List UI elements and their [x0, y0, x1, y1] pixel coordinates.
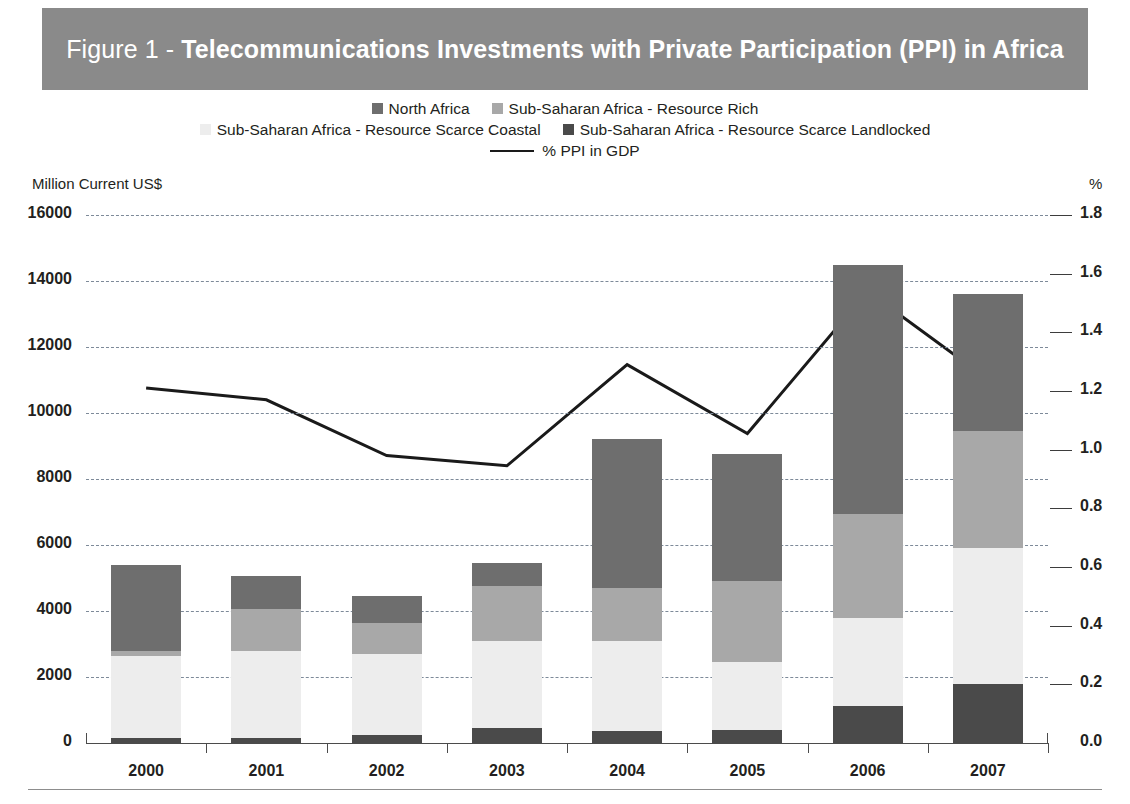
- chart-plot-area: [86, 215, 1048, 743]
- x-axis-tick-label: 2001: [221, 762, 311, 780]
- y2-axis-tick-mark: [1050, 391, 1072, 392]
- bar-segment[interactable]: [472, 728, 542, 743]
- bar-segment[interactable]: [352, 596, 422, 622]
- bar-stack-2007[interactable]: [953, 215, 1023, 743]
- figure-number: Figure 1 -: [66, 35, 181, 63]
- y-axis-tick-label: 6000: [12, 534, 72, 552]
- legend-label: Sub-Saharan Africa - Resource Scarce Coa…: [217, 121, 541, 139]
- legend-item[interactable]: % PPI in GDP: [490, 142, 639, 160]
- bar-segment[interactable]: [592, 731, 662, 743]
- x-axis-tick-mark: [567, 743, 568, 753]
- bar-segment[interactable]: [472, 641, 542, 728]
- legend-swatch-icon: [200, 124, 211, 135]
- page-title: Figure 1 - Telecommunications Investment…: [66, 34, 1064, 64]
- y2-axis-tick-label: 0.6: [1080, 556, 1130, 574]
- bar-segment[interactable]: [231, 609, 301, 650]
- y2-axis-tick-mark: [1050, 684, 1072, 685]
- legend-item[interactable]: Sub-Saharan Africa - Resource Rich: [492, 100, 759, 118]
- gridline: [86, 479, 1048, 480]
- y2-axis-tick-label: 1.2: [1080, 380, 1130, 398]
- bar-segment[interactable]: [592, 439, 662, 588]
- bar-segment[interactable]: [712, 454, 782, 581]
- bar-stack-2006[interactable]: [833, 215, 903, 743]
- y2-axis-tick-mark: [1050, 567, 1072, 568]
- page-bottom-rule: [28, 789, 1102, 790]
- x-axis-tick-mark: [206, 743, 207, 753]
- bar-segment[interactable]: [953, 548, 1023, 683]
- bar-segment[interactable]: [231, 651, 301, 738]
- legend-label: % PPI in GDP: [542, 142, 639, 160]
- bar-segment[interactable]: [111, 656, 181, 739]
- x-axis-tick-label: 2005: [702, 762, 792, 780]
- legend-item[interactable]: North Africa: [372, 100, 470, 118]
- bar-segment[interactable]: [833, 706, 903, 743]
- bar-segment[interactable]: [592, 588, 662, 641]
- x-axis-tick-mark: [687, 743, 688, 753]
- gridline: [86, 347, 1048, 348]
- bar-segment[interactable]: [833, 514, 903, 618]
- bar-segment[interactable]: [472, 586, 542, 640]
- y-axis-tick-label: 8000: [12, 468, 72, 486]
- x-axis-tick-label: 2003: [462, 762, 552, 780]
- y2-axis-tick-label: 0.8: [1080, 497, 1130, 515]
- y2-axis-tick-mark: [1050, 450, 1072, 451]
- gridline: [86, 677, 1048, 678]
- x-axis-tick-mark: [808, 743, 809, 753]
- y-axis-tick-label: 16000: [12, 204, 72, 222]
- y-axis-tick-label: 4000: [12, 600, 72, 618]
- y2-axis-tick-label: 0.0: [1080, 732, 1130, 750]
- bar-segment[interactable]: [712, 730, 782, 743]
- y2-axis-tick-label: 1.0: [1080, 439, 1130, 457]
- bar-stack-2000[interactable]: [111, 215, 181, 743]
- bar-segment[interactable]: [352, 623, 422, 654]
- left-axis-unit-label: Million Current US$: [32, 175, 162, 192]
- legend-swatch-icon: [563, 124, 574, 135]
- bar-segment[interactable]: [953, 431, 1023, 548]
- bar-stack-2003[interactable]: [472, 215, 542, 743]
- bar-stack-2001[interactable]: [231, 215, 301, 743]
- y-axis-tick-label: 0: [12, 732, 72, 750]
- gridline: [86, 545, 1048, 546]
- y2-axis-tick-label: 0.2: [1080, 673, 1130, 691]
- bar-stack-2004[interactable]: [592, 215, 662, 743]
- legend-row: North AfricaSub-Saharan Africa - Resourc…: [0, 98, 1130, 119]
- legend-row: Sub-Saharan Africa - Resource Scarce Coa…: [0, 119, 1130, 140]
- bar-segment[interactable]: [833, 265, 903, 514]
- x-axis-tick-mark: [928, 743, 929, 753]
- legend-item[interactable]: Sub-Saharan Africa - Resource Scarce Lan…: [563, 121, 931, 139]
- gridline: [86, 413, 1048, 414]
- y2-axis-tick-label: 1.6: [1080, 263, 1130, 281]
- y2-axis-tick-mark: [1050, 215, 1072, 216]
- bar-segment[interactable]: [111, 565, 181, 651]
- bar-segment[interactable]: [592, 641, 662, 732]
- figure-title-banner: Figure 1 - Telecommunications Investment…: [42, 8, 1088, 90]
- y-axis-tick-label: 12000: [12, 336, 72, 354]
- legend-swatch-icon: [372, 103, 383, 114]
- bar-segment[interactable]: [472, 563, 542, 586]
- bar-segment[interactable]: [833, 618, 903, 706]
- bar-segment[interactable]: [953, 684, 1023, 743]
- y2-axis-tick-label: 1.8: [1080, 204, 1130, 222]
- chart-legend: North AfricaSub-Saharan Africa - Resourc…: [0, 98, 1130, 161]
- y2-axis-tick-label: 1.4: [1080, 321, 1130, 339]
- bar-segment[interactable]: [111, 651, 181, 656]
- bar-segment[interactable]: [953, 294, 1023, 431]
- gridline: [86, 215, 1048, 216]
- legend-item[interactable]: Sub-Saharan Africa - Resource Scarce Coa…: [200, 121, 541, 139]
- x-axis-tick-label: 2002: [342, 762, 432, 780]
- bar-segment[interactable]: [352, 735, 422, 743]
- bar-segment[interactable]: [712, 662, 782, 730]
- bar-segment[interactable]: [352, 654, 422, 735]
- legend-line-marker-icon: [490, 150, 534, 152]
- gridline: [86, 611, 1048, 612]
- bar-stack-2005[interactable]: [712, 215, 782, 743]
- bar-segment[interactable]: [231, 576, 301, 609]
- x-axis-tick-mark: [327, 743, 328, 753]
- legend-label: Sub-Saharan Africa - Resource Rich: [509, 100, 759, 118]
- bar-stack-2002[interactable]: [352, 215, 422, 743]
- bar-segment[interactable]: [712, 581, 782, 662]
- x-axis-tick-mark: [447, 743, 448, 753]
- y-axis-tick-label: 10000: [12, 402, 72, 420]
- legend-swatch-icon: [492, 103, 503, 114]
- right-axis-unit-label: %: [1089, 175, 1102, 192]
